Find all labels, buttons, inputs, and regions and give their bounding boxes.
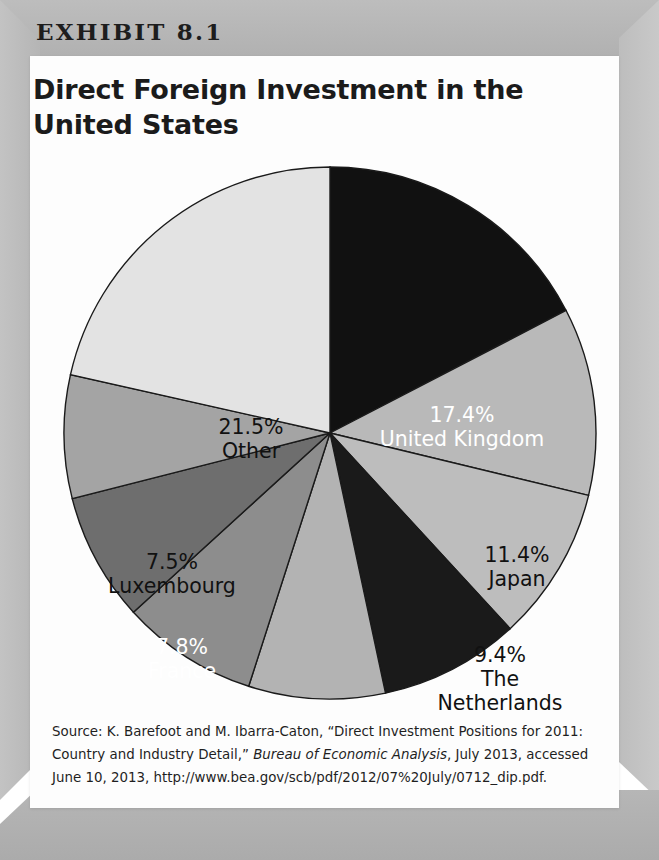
pie-slice-name-label: France <box>148 659 216 683</box>
pie-slice-name-label: Luxembourg <box>108 574 236 598</box>
pie-slice-value-label: 9.4% <box>474 643 526 667</box>
pie-slice-name-label: The <box>480 667 519 691</box>
exhibit-number-label: EXHIBIT 8.1 <box>36 18 223 45</box>
pie-slice-name-label: Netherlands <box>438 691 563 715</box>
pie-slice-value-label: 11.4% <box>484 543 549 567</box>
pie-chart: 17.4%United Kingdom11.4%Japan9.4%TheNeth… <box>30 150 630 720</box>
pie-slice-name-label: Other <box>222 439 281 463</box>
exhibit-page: EXHIBIT 8.1 Direct Foreign Investment in… <box>0 0 659 860</box>
pie-chart-svg: 17.4%United Kingdom11.4%Japan9.4%TheNeth… <box>30 150 630 720</box>
pie-slice-name-label: Japan <box>486 567 545 591</box>
pie-slice-value-label: 7.8% <box>156 635 208 659</box>
pie-slice-value-label: 21.5% <box>218 415 283 439</box>
source-publication: Bureau of Economic Analysis <box>253 747 447 762</box>
pie-slice-name-label: United Kingdom <box>380 427 545 451</box>
pie-slice-value-label: 7.5% <box>146 550 198 574</box>
source-note: Source: K. Barefoot and M. Ibarra-Caton,… <box>52 720 597 789</box>
page-title: Direct Foreign Investment in the United … <box>33 72 553 142</box>
pie-slice-value-label: 17.4% <box>429 403 494 427</box>
